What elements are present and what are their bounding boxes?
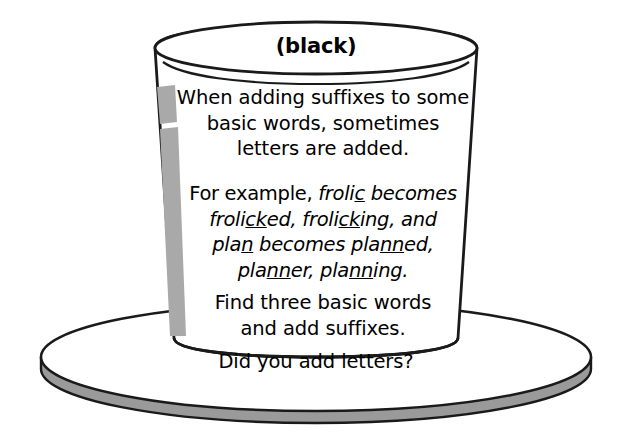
- paragraph-intro: When adding suffixes to some basic words…: [173, 85, 473, 162]
- crown-color-label: (black): [0, 36, 632, 57]
- underlined-letters: c: [354, 182, 364, 205]
- text-run: pla: [238, 259, 267, 282]
- text-line: plan becomes planned,: [173, 232, 473, 258]
- text-run: pla: [212, 233, 241, 256]
- underlined-letters: nn: [267, 259, 291, 282]
- text-run: For example,: [189, 182, 318, 205]
- text-line: letters are added.: [173, 136, 473, 162]
- text-line: planner, planning.: [173, 258, 473, 284]
- text-line: frolicked, frolicking, and: [173, 207, 473, 233]
- paragraph-example: For example, frolic becomes frolicked, f…: [173, 181, 473, 283]
- underlined-letters: n: [241, 233, 253, 256]
- text-run: ed, froli: [267, 208, 339, 231]
- text-run: froli: [318, 182, 354, 205]
- text-line: basic words, sometimes: [173, 111, 473, 137]
- brim-question-text: Did you add letters?: [0, 352, 632, 372]
- text-run: er, pla: [291, 259, 349, 282]
- text-run: becomes pla: [253, 233, 380, 256]
- text-run: ed,: [404, 233, 434, 256]
- text-line: and add suffixes.: [173, 316, 473, 342]
- underlined-letters: nn: [349, 259, 373, 282]
- text-line: Find three basic words: [173, 290, 473, 316]
- underlined-letters: nn: [380, 233, 404, 256]
- text-run: ing, and: [360, 208, 437, 231]
- underlined-letters: ck: [339, 208, 360, 231]
- text-line: When adding suffixes to some: [173, 85, 473, 111]
- text-run: froli: [209, 208, 245, 231]
- paragraph-task: Find three basic words and add suffixes.: [173, 290, 473, 341]
- text-line: For example, frolic becomes: [173, 181, 473, 207]
- text-run: ing.: [373, 259, 408, 282]
- illustration-canvas: (black) When adding suffixes to some bas…: [0, 0, 632, 447]
- underlined-letters: ck: [245, 208, 266, 231]
- text-run: becomes: [365, 182, 457, 205]
